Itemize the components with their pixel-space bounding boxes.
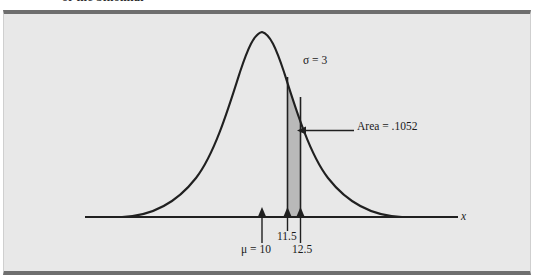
mean-label: μ = 10 (241, 244, 271, 256)
caption-strip: of the binomial (0, 0, 534, 9)
figure-screenshot: of the binomial (0, 0, 534, 278)
x-axis-label: x (461, 211, 466, 223)
area-label: Area = .1052 (357, 121, 417, 133)
sigma-label: σ = 3 (303, 55, 327, 67)
caption-text: of the binomial (62, 0, 144, 5)
figure-panel (3, 10, 531, 275)
upper-bound-label: 12.5 (292, 244, 312, 256)
lower-bound-label: 11.5 (277, 231, 297, 243)
